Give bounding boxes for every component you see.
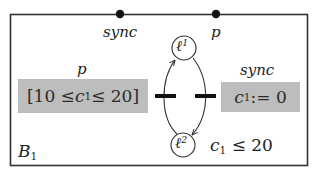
transition-p-port-label: p <box>77 62 87 77</box>
transition-p-bar[interactable] <box>155 94 176 98</box>
transition-p-guard: [10 ≤ c1 ≤ 20] <box>18 79 148 113</box>
location-l2-label: ℓ2 <box>175 135 187 151</box>
port-p-dot[interactable] <box>212 10 220 18</box>
component-name: B1 <box>18 143 37 161</box>
transition-sync-bar[interactable] <box>195 94 216 98</box>
location-l2-invariant: c1 ≤ 20 <box>210 137 273 155</box>
port-p-label: p <box>211 25 221 40</box>
port-sync-label: sync <box>103 25 137 40</box>
transition-sync-port-label: sync <box>240 63 274 78</box>
port-sync-dot[interactable] <box>116 10 124 18</box>
location-l1-label: ℓ1 <box>176 38 188 54</box>
bip-component-diagram: sync p ℓ1 ℓ2 p [10 ≤ c1 ≤ 20] sync c1 :=… <box>0 0 318 177</box>
transition-sync-action: c1 := 0 <box>221 82 300 112</box>
